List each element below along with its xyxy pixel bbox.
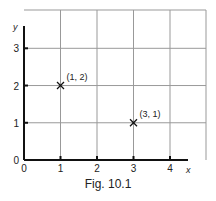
chart-plot: 012340123xy (1, 2)(3, 1)	[0, 0, 216, 201]
svg-text:2: 2	[13, 81, 19, 92]
svg-text:x: x	[185, 165, 191, 175]
svg-text:0: 0	[13, 155, 19, 166]
svg-text:2: 2	[94, 163, 100, 174]
svg-text:0: 0	[21, 163, 27, 174]
svg-text:(1, 2): (1, 2)	[67, 72, 88, 82]
svg-text:1: 1	[13, 118, 19, 129]
svg-text:3: 3	[13, 43, 19, 54]
tick-labels: 012340123xy	[12, 22, 191, 175]
svg-text:4: 4	[167, 163, 173, 174]
svg-text:3: 3	[131, 163, 137, 174]
figure-caption: Fig. 10.1	[0, 177, 216, 191]
grid	[24, 10, 206, 160]
svg-text:1: 1	[58, 163, 64, 174]
svg-text:(3, 1): (3, 1)	[140, 109, 161, 119]
axes	[24, 26, 188, 160]
data-points: (1, 2)(3, 1)	[57, 72, 161, 127]
svg-text:y: y	[12, 22, 18, 32]
